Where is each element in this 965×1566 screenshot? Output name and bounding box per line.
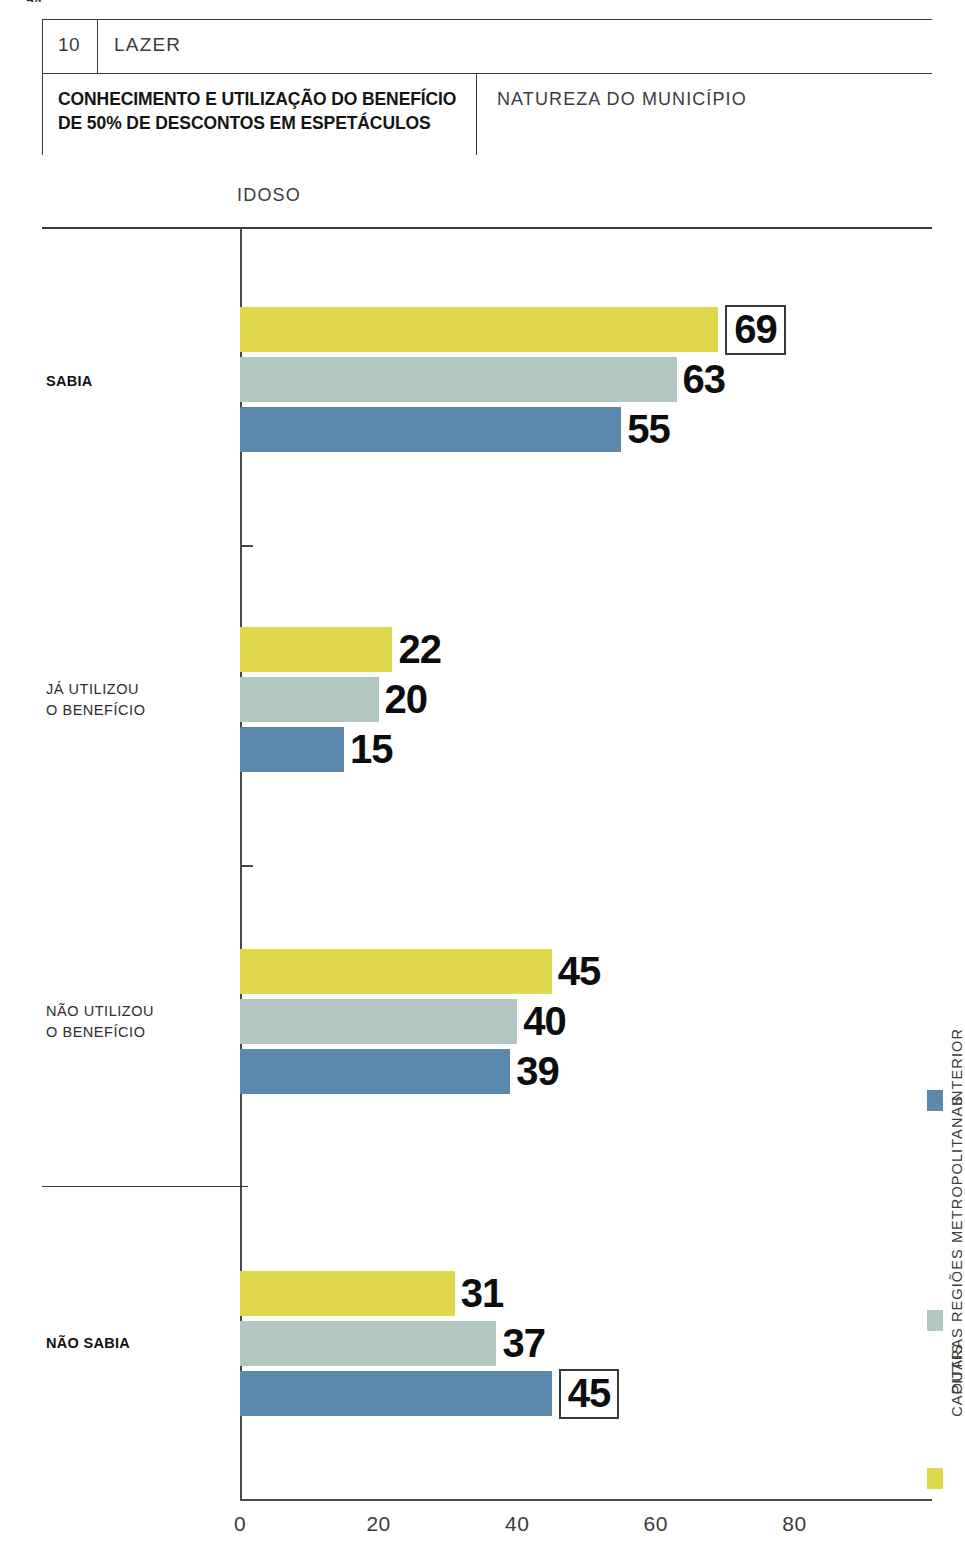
category-label: NÃO SABIA — [46, 1333, 231, 1354]
x-axis-tick-label: 20 — [366, 1512, 390, 1536]
bar-value-label: 45 — [559, 1369, 620, 1419]
bar — [240, 1321, 496, 1366]
legend-swatch — [927, 1310, 943, 1331]
bar-value-label: 15 — [350, 727, 393, 772]
bar — [240, 677, 379, 722]
bar-value-label: 55 — [627, 407, 670, 452]
category-divider — [42, 1186, 248, 1187]
bar — [240, 407, 621, 452]
bar — [240, 727, 344, 772]
axis-tick-mark — [242, 545, 253, 547]
bar-value-label: 45 — [558, 949, 601, 994]
bar-value-label: 69 — [725, 305, 786, 355]
bar-value-label: 40 — [523, 999, 566, 1044]
x-axis-tick-label: 60 — [644, 1512, 668, 1536]
bar-value-label: 39 — [516, 1049, 559, 1094]
x-axis-line — [240, 1499, 932, 1501]
legend-swatch — [927, 1468, 943, 1489]
bar — [240, 999, 517, 1044]
axis-tick-mark — [242, 865, 253, 867]
legend-swatch — [927, 1090, 943, 1111]
category-label: NÃO UTILIZOUO BENEFÍCIO — [46, 1001, 231, 1042]
category-label: JÁ UTILIZOUO BENEFÍCIO — [46, 679, 231, 720]
bar — [240, 627, 392, 672]
legend-label: CAPITAIS — [949, 1343, 965, 1417]
bar-value-label: 63 — [683, 357, 726, 402]
bar-value-label: 22 — [398, 627, 441, 672]
bar — [240, 1271, 455, 1316]
bar — [240, 1371, 552, 1416]
bar — [240, 1049, 510, 1094]
x-axis-tick-label: 40 — [505, 1512, 529, 1536]
x-axis-tick-label: 0 — [234, 1512, 246, 1536]
bar-value-label: 37 — [502, 1321, 545, 1366]
bar — [240, 949, 552, 994]
bar — [240, 307, 718, 352]
bar — [240, 357, 677, 402]
category-label: SABIA — [46, 371, 231, 392]
x-axis-tick-label: 80 — [782, 1512, 806, 1536]
chart-legend: INTERIOROUTRAS REGIÕES METROPOLITANASCAP… — [899, 0, 955, 1566]
bar-value-label: 31 — [461, 1271, 504, 1316]
bar-value-label: 20 — [385, 677, 428, 722]
